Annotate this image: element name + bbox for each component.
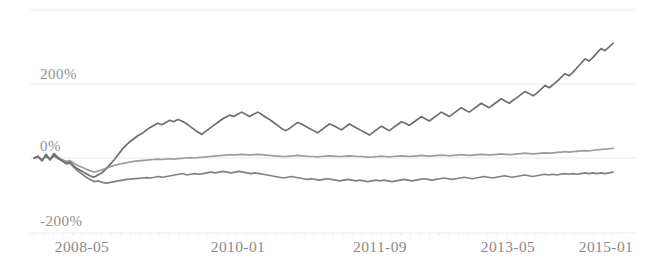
series-line-series-3 (34, 155, 613, 183)
gridlines (30, 10, 635, 233)
y-axis-label: 200% (40, 66, 77, 83)
line-chart: 200%0%-200% 2008-052010-012011-092013-05… (0, 0, 649, 279)
x-axis-label: 2010-01 (211, 238, 265, 256)
x-axis-label: 2011-09 (353, 238, 407, 256)
y-axis-label: -200% (40, 213, 83, 230)
y-axis-label: 0% (40, 138, 61, 155)
series-layer (34, 43, 613, 183)
x-axis-label: 2008-05 (55, 238, 109, 256)
axis-tick-marks (34, 233, 613, 236)
x-axis-label: 2013-05 (481, 238, 535, 256)
x-axis-label: 2015-01 (579, 238, 633, 256)
